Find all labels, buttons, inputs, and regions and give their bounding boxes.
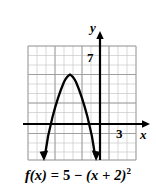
caption-binomial: (x + 2) (86, 167, 126, 183)
x-axis (23, 120, 150, 127)
y-tick-label-7: 7 (87, 50, 94, 65)
y-axis-label: y (88, 20, 96, 35)
y-axis (96, 31, 103, 160)
curve-left-arrowhead (40, 150, 49, 161)
y-axis-arrowhead (96, 31, 103, 39)
graph-canvas: y x 7 3 (0, 0, 156, 189)
caption-exponent: 2 (126, 166, 131, 176)
x-tick-label-3: 3 (116, 126, 123, 141)
caption-fx: f(x) (25, 167, 47, 183)
caption-equals: = (51, 167, 59, 183)
parabola-figure: y x 7 3 f(x) = 5 − (x + 2)2 (0, 0, 156, 189)
x-axis-label: x (139, 127, 147, 142)
equation-caption: f(x) = 5 − (x + 2)2 (0, 165, 156, 185)
